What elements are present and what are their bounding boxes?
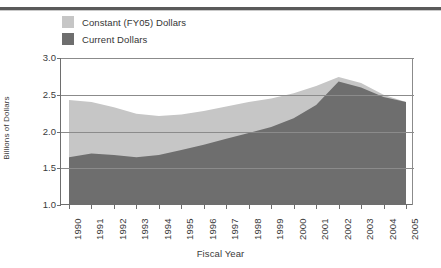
x-tick-2003: 2003 (364, 218, 375, 240)
x-tick-1991: 1991 (94, 218, 105, 240)
x-tick-1992: 1992 (117, 218, 128, 240)
x-tick-2002: 2002 (342, 218, 353, 240)
x-tick-1997: 1997 (229, 218, 240, 240)
x-tick-1993: 1993 (139, 218, 150, 240)
x-tick-2004: 2004 (387, 218, 398, 240)
x-tick-2005: 2005 (409, 218, 420, 240)
x-tick-1994: 1994 (162, 218, 173, 240)
x-axis-tick-labels: 1990199119921993199419951996199719981999… (0, 0, 441, 268)
x-tick-2001: 2001 (319, 218, 330, 240)
x-tick-1996: 1996 (207, 218, 218, 240)
x-tick-1999: 1999 (274, 218, 285, 240)
plot-wrapper: 1.01.52.02.53.0 199019911992199319941995… (0, 0, 441, 268)
chart-figure: Constant (FY05) Dollars Current Dollars … (0, 0, 441, 268)
x-axis-title: Fiscal Year (0, 248, 441, 259)
x-tick-1990: 1990 (72, 218, 83, 240)
x-tick-1998: 1998 (252, 218, 263, 240)
x-tick-2000: 2000 (297, 218, 308, 240)
x-tick-1995: 1995 (184, 218, 195, 240)
